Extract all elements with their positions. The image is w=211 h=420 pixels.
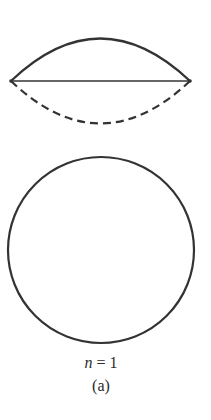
figure-label: (a)	[0, 378, 202, 394]
orbit-circle	[8, 157, 194, 343]
wave-upper-solid	[11, 39, 190, 82]
equation-operator: =	[96, 354, 105, 371]
equation-value: 1	[110, 354, 118, 371]
left-node-dot	[9, 79, 13, 83]
right-node-dot	[188, 79, 192, 83]
wave-lower-dashed	[11, 81, 190, 124]
mode-equation: n = 1	[0, 355, 202, 371]
equation-variable: n	[84, 354, 92, 371]
